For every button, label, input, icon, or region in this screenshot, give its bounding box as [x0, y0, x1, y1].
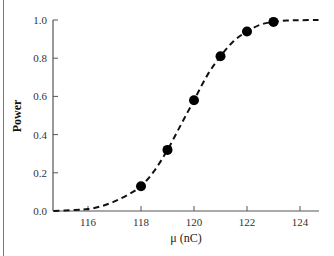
y-tick-label: 0.0 [33, 205, 47, 217]
power-chart: 0.00.20.40.60.81.0116118120122124 μ (nC)… [0, 0, 334, 256]
y-axis-title: Power [10, 99, 24, 132]
y-tick-label: 0.4 [33, 129, 47, 141]
data-point-marker [163, 145, 173, 155]
axes: 0.00.20.40.60.81.0116118120122124 [33, 14, 319, 228]
power-curve [54, 20, 319, 211]
x-tick-label: 124 [292, 216, 309, 228]
dashed-curve [54, 20, 319, 211]
x-tick-label: 118 [133, 216, 150, 228]
y-tick-label: 0.8 [33, 52, 47, 64]
y-tick-label: 0.2 [33, 167, 47, 179]
y-tick-label: 1.0 [33, 14, 47, 26]
x-tick-label: 120 [186, 216, 203, 228]
data-point-marker [189, 95, 199, 105]
y-tick-label: 0.6 [33, 90, 47, 102]
x-tick-label: 116 [80, 216, 97, 228]
x-axis-title: μ (nC) [170, 231, 201, 245]
data-point-marker [242, 26, 252, 36]
data-point-marker [269, 17, 279, 27]
x-tick-label: 122 [239, 216, 256, 228]
data-points [136, 17, 279, 191]
data-point-marker [136, 181, 146, 191]
data-point-marker [216, 51, 226, 61]
